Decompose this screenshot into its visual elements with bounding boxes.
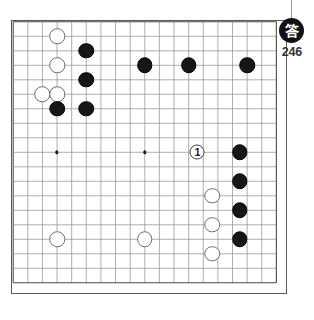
move-marker-stone[interactable]: 1 [190,145,205,160]
go-board-container[interactable]: 1 [11,20,287,294]
badge-stem-line [291,0,292,20]
white-stone[interactable] [35,87,51,103]
white-stone[interactable] [49,58,65,74]
black-stone[interactable] [79,43,95,59]
answer-kanji-icon: 答 [279,18,304,43]
black-stone[interactable] [49,101,65,117]
black-stone[interactable] [79,101,95,117]
black-stone[interactable] [181,58,197,74]
black-stone[interactable] [239,58,255,74]
problem-number: 246 [272,45,312,59]
white-stone[interactable] [204,188,220,204]
black-stone[interactable] [232,174,248,190]
black-stone[interactable] [232,145,248,161]
black-stone[interactable] [79,72,95,88]
black-stone[interactable] [232,232,248,248]
white-stone[interactable] [137,232,153,248]
white-stone[interactable] [204,246,220,262]
white-stone[interactable] [49,87,65,103]
white-stone[interactable] [49,232,65,248]
black-stone[interactable] [137,58,153,74]
go-problem-figure: 1 答 246 [0,0,314,320]
white-stone[interactable] [204,217,220,233]
black-stone[interactable] [232,203,248,219]
white-stone[interactable] [49,29,65,45]
